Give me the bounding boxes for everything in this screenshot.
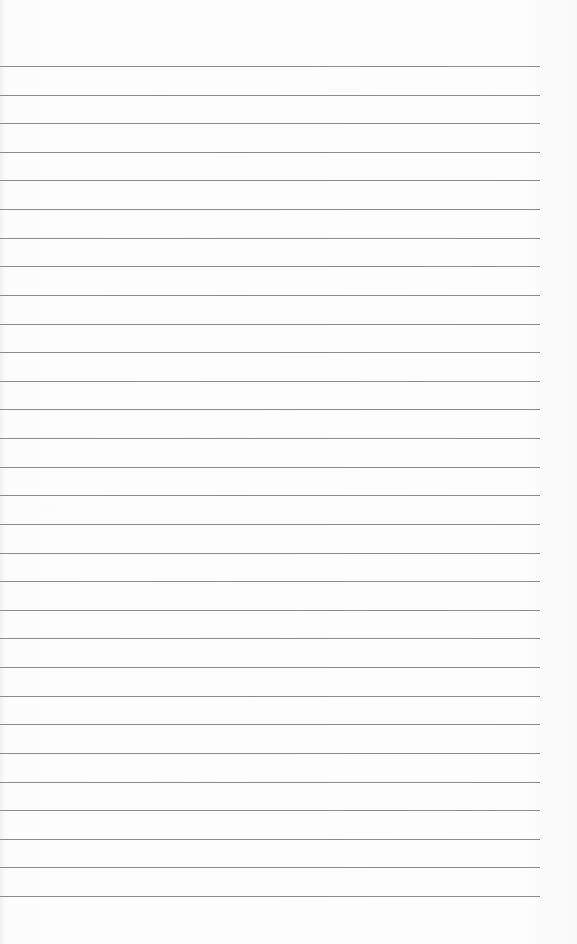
ruled-line [0, 610, 540, 611]
ruled-line [0, 352, 540, 353]
ruled-line [0, 381, 540, 382]
ruled-line [0, 152, 540, 153]
ruled-line [0, 810, 540, 811]
ruled-line [0, 524, 540, 525]
ruled-line [0, 553, 540, 554]
ruled-line [0, 896, 540, 897]
ruled-line [0, 724, 540, 725]
ruled-line [0, 295, 540, 296]
ruled-line [0, 782, 540, 783]
ruled-line [0, 581, 540, 582]
ruled-line [0, 66, 540, 67]
ruled-line [0, 839, 540, 840]
ruled-line [0, 467, 540, 468]
ruled-line [0, 123, 540, 124]
ruled-line [0, 867, 540, 868]
ruled-line [0, 495, 540, 496]
lined-paper-sheet [0, 0, 577, 944]
ruled-line [0, 209, 540, 210]
ruled-line [0, 438, 540, 439]
ruled-line [0, 238, 540, 239]
ruled-line [0, 409, 540, 410]
ruled-line [0, 753, 540, 754]
ruled-line [0, 266, 540, 267]
ruled-line [0, 324, 540, 325]
ruled-line [0, 696, 540, 697]
ruled-line [0, 638, 540, 639]
ruled-line [0, 95, 540, 96]
ruled-line [0, 667, 540, 668]
ruled-line [0, 180, 540, 181]
